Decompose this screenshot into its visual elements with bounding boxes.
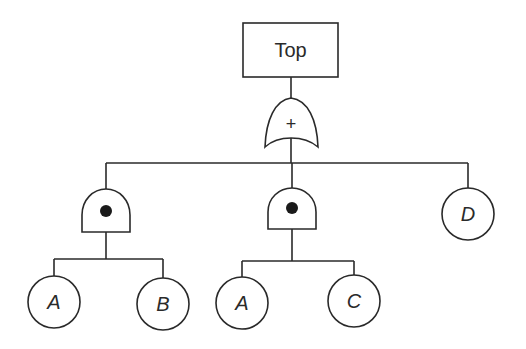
fault-tree-diagram: Top + A B A C [0, 0, 526, 349]
basic-event-b: B [137, 278, 189, 330]
top-event: Top [243, 23, 338, 77]
and-gate-middle [268, 188, 316, 229]
basic-event-a-middle: A [216, 277, 268, 329]
basic-event-a-left: A [28, 276, 80, 328]
basic-event-label: C [347, 290, 362, 312]
basic-event-label: D [461, 203, 475, 225]
and-symbol-dot-icon [100, 205, 112, 217]
and-gate-left [82, 189, 130, 232]
basic-event-label: A [234, 292, 248, 314]
basic-event-c: C [328, 275, 380, 327]
basic-event-d: D [442, 188, 494, 240]
or-gate-symbol: + [286, 114, 297, 134]
and-symbol-dot-icon [286, 202, 298, 214]
basic-event-label: A [46, 291, 60, 313]
top-event-label: Top [274, 39, 306, 61]
basic-event-label: B [156, 293, 169, 315]
